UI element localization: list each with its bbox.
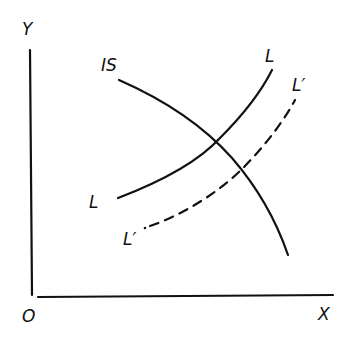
l-prime-curve — [150, 100, 295, 226]
origin-label: O — [22, 306, 35, 326]
l-prime-curve-start-dot — [144, 227, 147, 230]
is-lm-diagram: Y X O IS L L L′ L′ — [0, 0, 351, 341]
l-prime-curve-label-bottom: L′ — [123, 229, 136, 249]
l-prime-curve-label-top: L′ — [292, 75, 305, 95]
y-axis — [30, 50, 32, 295]
l-curve-label-top: L — [265, 46, 274, 66]
x-axis — [38, 295, 333, 297]
x-axis-label: X — [317, 304, 330, 324]
l-curve-label-bottom: L — [89, 192, 98, 212]
is-curve-label: IS — [101, 55, 117, 75]
y-axis-label: Y — [22, 19, 34, 39]
